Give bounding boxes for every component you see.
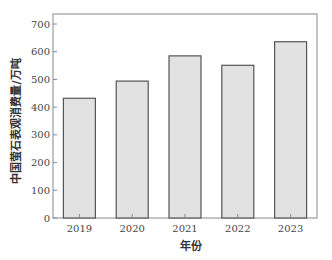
x-tick-label: 2022 [225,223,250,234]
y-tick-label: 300 [31,129,50,140]
bar-chart: 0100200300400500600700201920202021202220… [0,0,332,260]
bar-2019 [63,98,95,218]
y-tick-label: 0 [44,213,50,224]
y-tick-label: 500 [31,74,50,85]
bar-2020 [116,81,148,218]
plot-area: 0100200300400500600700201920202021202220… [31,14,317,234]
bar-2022 [222,65,254,218]
y-tick-label: 600 [31,46,50,57]
bar-2021 [169,56,201,218]
y-tick-label: 200 [31,157,50,168]
y-tick-label: 700 [31,19,50,30]
y-axis-title: 中国萤石表观消费量/万吨 [9,58,23,183]
x-tick-label: 2019 [67,223,92,234]
y-tick-label: 400 [31,102,50,113]
y-tick-label: 100 [31,185,50,196]
bar-2023 [275,42,307,218]
x-tick-label: 2023 [278,223,303,234]
x-axis-title: 年份 [180,239,203,253]
x-tick-label: 2020 [119,223,144,234]
x-tick-label: 2021 [172,223,197,234]
